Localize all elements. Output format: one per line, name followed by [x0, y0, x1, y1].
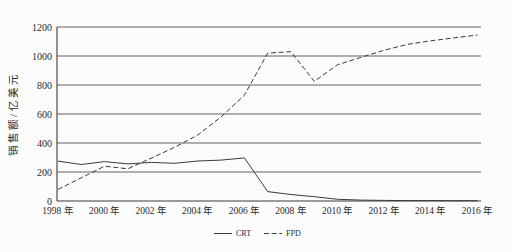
crt-fpd-sales-line-chart: 0200400600800100012001998 年2000 年2002 年2… — [0, 0, 512, 252]
y-tick-label-400: 400 — [37, 138, 52, 149]
fpd-line — [58, 35, 477, 189]
y-axis-title: 销售额/亿美元 — [7, 72, 19, 156]
x-tick-label-2016: 2016 年 — [462, 205, 493, 216]
crt-line — [58, 158, 477, 201]
x-tick-label-2002: 2002 年 — [136, 205, 167, 216]
chart-page: 0200400600800100012001998 年2000 年2002 年2… — [0, 0, 512, 252]
x-tick-label-2014: 2014 年 — [415, 205, 446, 216]
y-tick-label-200: 200 — [37, 167, 52, 178]
x-tick-label-2000: 2000 年 — [89, 205, 120, 216]
y-tick-label-1200: 1200 — [32, 22, 52, 33]
x-tick-label-2010: 2010 年 — [322, 205, 353, 216]
x-tick-label-2006: 2006 年 — [229, 205, 260, 216]
x-tick-label-2008: 2008 年 — [275, 205, 306, 216]
y-tick-label-1000: 1000 — [32, 51, 52, 62]
x-tick-label-2004: 2004 年 — [182, 205, 213, 216]
x-tick-label-1998: 1998 年 — [42, 205, 73, 216]
x-tick-label-2012: 2012 年 — [369, 205, 400, 216]
y-tick-label-600: 600 — [37, 109, 52, 120]
legend-label-crt: CRT — [236, 229, 251, 238]
legend-label-fpd: FPD — [286, 229, 301, 238]
y-tick-label-800: 800 — [37, 80, 52, 91]
